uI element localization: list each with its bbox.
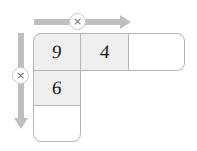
cell-row1-col2[interactable]: 4 bbox=[80, 33, 129, 71]
top-arrow-head-right-icon bbox=[120, 15, 131, 29]
puzzle-canvas: × × 9 4 6 bbox=[0, 0, 197, 151]
cell-row1-col2-value: 4 bbox=[99, 41, 110, 63]
cell-row2-col1-value: 6 bbox=[51, 77, 62, 99]
cell-row3-col1-answer[interactable] bbox=[33, 105, 81, 142]
cell-row2-col1[interactable]: 6 bbox=[33, 70, 81, 106]
cell-row1-col1-value: 9 bbox=[51, 41, 62, 63]
top-multiply-icon: × bbox=[69, 13, 86, 30]
left-arrow-head-down-icon bbox=[14, 118, 28, 129]
cell-row1-col1[interactable]: 9 bbox=[33, 33, 81, 71]
cell-row1-col3-answer[interactable] bbox=[128, 33, 185, 71]
left-multiply-icon: × bbox=[12, 67, 29, 84]
